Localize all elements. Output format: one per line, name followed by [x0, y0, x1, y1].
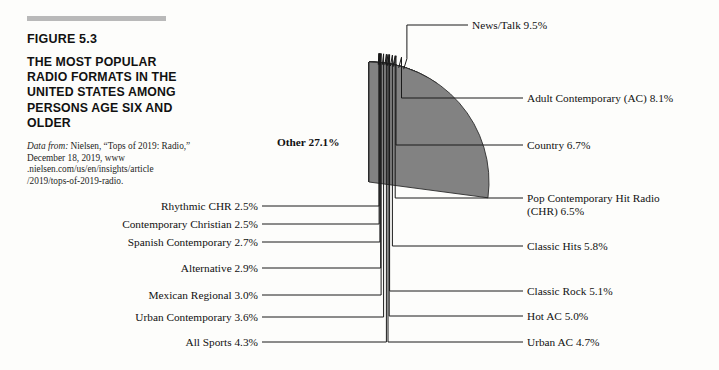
- callout-pop-chr: Pop Contemporary Hit Radio (CHR) 6.5%: [527, 192, 660, 219]
- leader-line: [262, 54, 381, 295]
- callout-classic-hits: Classic Hits 5.8%: [527, 240, 608, 253]
- leader-line: [262, 54, 384, 317]
- callout-contemporary-christian: Contemporary Christian 2.5%: [122, 218, 258, 231]
- pie-chart-svg: [0, 0, 719, 370]
- figure-page: FIGURE 5.3 THE MOST POPULAR RADIO FORMAT…: [0, 0, 719, 370]
- pie-chart: Other 27.1% News/Talk 9.5% Adult Contemp…: [0, 0, 719, 370]
- leader-line: [262, 54, 386, 342]
- callout-alternative: Alternative 2.9%: [181, 262, 258, 275]
- callout-urban-ac: Urban AC 4.7%: [527, 336, 599, 349]
- callout-country: Country 6.7%: [527, 139, 590, 152]
- callout-urban-contemporary: Urban Contemporary 3.6%: [135, 311, 258, 324]
- leader-line: [262, 54, 381, 269]
- slice-label-other: Other 27.1%: [277, 136, 340, 148]
- callout-classic-rock: Classic Rock 5.1%: [527, 285, 613, 298]
- callout-rhythmic-chr: Rhythmic CHR 2.5%: [161, 200, 258, 213]
- pie-slices: [369, 62, 489, 198]
- callout-adult-contemporary: Adult Contemporary (AC) 8.1%: [527, 92, 673, 105]
- leader-line: [404, 25, 468, 69]
- callout-news-talk: News/Talk 9.5%: [472, 19, 547, 32]
- callout-all-sports: All Sports 4.3%: [186, 336, 259, 349]
- pie-slice: [369, 62, 489, 198]
- leader-line: [262, 53, 379, 206]
- callout-spanish-contemporary: Spanish Contemporary 2.7%: [128, 236, 258, 249]
- callout-hot-ac: Hot AC 5.0%: [527, 310, 588, 323]
- callout-mexican-regional: Mexican Regional 3.0%: [149, 289, 259, 302]
